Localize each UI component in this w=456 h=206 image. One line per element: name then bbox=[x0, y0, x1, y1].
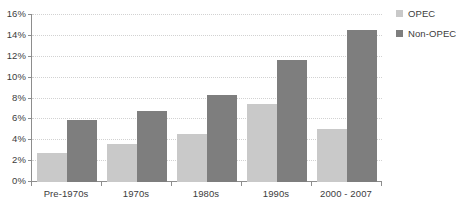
bar-group bbox=[241, 14, 311, 182]
x-axis-category-label: 1970s bbox=[123, 189, 149, 199]
x-axis-tick-mark bbox=[31, 182, 32, 186]
y-axis-tick-label: 14% bbox=[7, 30, 26, 40]
y-axis-tick-label: 8% bbox=[12, 93, 26, 103]
x-axis-category-label: 2000 - 2007 bbox=[320, 189, 372, 199]
bars-layer bbox=[31, 14, 382, 182]
bar-group bbox=[31, 14, 101, 182]
legend-item-opec[interactable]: OPEC bbox=[396, 9, 452, 19]
y-axis-tick-label: 12% bbox=[7, 51, 26, 61]
x-axis-tick-mark bbox=[381, 182, 382, 186]
bar-opec[interactable] bbox=[177, 134, 207, 182]
y-axis-tick-label: 0% bbox=[12, 176, 26, 186]
bar-opec[interactable] bbox=[317, 129, 347, 182]
bar-opec[interactable] bbox=[37, 153, 67, 182]
x-axis-tick-mark bbox=[241, 182, 242, 186]
y-axis-tick-label: 16% bbox=[7, 9, 26, 19]
x-axis-category-label: Pre-1970s bbox=[44, 189, 89, 199]
legend-item-label: OPEC bbox=[408, 9, 435, 19]
bar-opec[interactable] bbox=[247, 104, 277, 182]
chart-legend: OPECNon-OPEC bbox=[396, 9, 452, 48]
x-axis-tick-mark bbox=[311, 182, 312, 186]
bar-non-opec[interactable] bbox=[67, 120, 97, 182]
x-axis-category-label: 1980s bbox=[193, 189, 219, 199]
bar-group bbox=[311, 14, 381, 182]
legend-swatch-icon bbox=[396, 30, 403, 37]
y-axis-tick-label: 6% bbox=[12, 114, 26, 124]
bar-non-opec[interactable] bbox=[137, 111, 167, 182]
x-axis-category-label: 1990s bbox=[263, 189, 289, 199]
bar-group bbox=[171, 14, 241, 182]
bar-group bbox=[101, 14, 171, 182]
bar-opec[interactable] bbox=[107, 144, 137, 182]
y-axis-tick-label: 10% bbox=[7, 72, 26, 82]
x-axis-tick-mark bbox=[101, 182, 102, 186]
x-axis-tick-mark bbox=[171, 182, 172, 186]
legend-item-label: Non-OPEC bbox=[408, 29, 456, 39]
bar-non-opec[interactable] bbox=[347, 30, 377, 182]
legend-swatch-icon bbox=[396, 10, 403, 17]
x-axis: Pre-1970s1970s1980s1990s2000 - 2007 bbox=[31, 182, 382, 206]
bar-non-opec[interactable] bbox=[277, 60, 307, 182]
y-axis-tick-label: 4% bbox=[12, 135, 26, 145]
y-axis-tick-label: 2% bbox=[12, 155, 26, 165]
bar-non-opec[interactable] bbox=[207, 95, 237, 182]
legend-item-non-opec[interactable]: Non-OPEC bbox=[396, 29, 452, 39]
